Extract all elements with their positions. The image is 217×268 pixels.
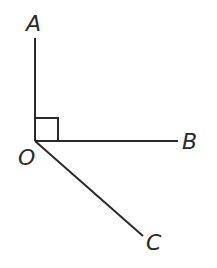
right-angle-marker bbox=[35, 118, 58, 141]
geometry-diagram: A B C O bbox=[0, 0, 217, 268]
label-o: O bbox=[18, 145, 35, 170]
ray-oc bbox=[35, 141, 143, 236]
label-a: A bbox=[24, 11, 41, 36]
label-c: C bbox=[146, 230, 162, 255]
label-b: B bbox=[182, 129, 197, 154]
